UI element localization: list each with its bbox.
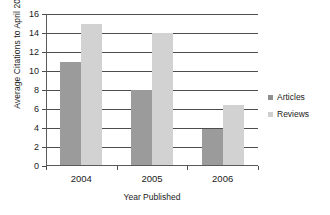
legend-entry-reviews: Reviews — [268, 109, 309, 119]
x-tick-mark — [117, 166, 118, 170]
plot-frame — [46, 14, 258, 166]
legend-entry-articles: Articles — [268, 92, 309, 102]
y-tick-label: 10 — [29, 66, 39, 76]
chart-legend: ArticlesReviews — [268, 92, 309, 119]
x-tick-label-2004: 2004 — [71, 173, 92, 184]
y-tick-label: 4 — [34, 123, 39, 133]
y-tick-label: 12 — [29, 47, 39, 57]
y-tick-label: 2 — [34, 142, 39, 152]
legend-swatch-icon — [268, 112, 273, 117]
x-tick-label-2005: 2005 — [141, 173, 162, 184]
legend-label: Articles — [277, 92, 305, 102]
x-tick-mark — [258, 166, 259, 170]
legend-swatch-icon — [268, 95, 273, 100]
y-tick-label: 14 — [29, 28, 39, 38]
y-tick-label: 6 — [34, 104, 39, 114]
x-tick-mark — [46, 166, 47, 170]
x-axis-title: Year Published — [46, 192, 258, 202]
y-tick-label: 0 — [34, 161, 39, 171]
y-tick-label: 8 — [34, 85, 39, 95]
x-tick-label-2006: 2006 — [212, 173, 233, 184]
x-tick-mark — [187, 166, 188, 170]
legend-label: Reviews — [277, 109, 309, 119]
y-tick-label: 16 — [29, 9, 39, 19]
y-axis-title: Average Citations to April 2008 — [12, 0, 22, 124]
plot-area: 0246810121416 200420052006 — [46, 14, 258, 166]
bar-chart-figure: Average Citations to April 2008 02468101… — [0, 0, 330, 215]
